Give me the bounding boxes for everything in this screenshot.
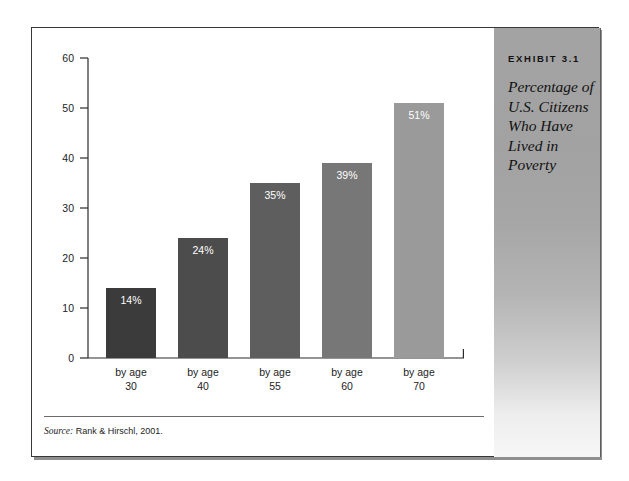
x-tick-line-2: 40 bbox=[168, 380, 238, 394]
x-tick-line-2: 70 bbox=[384, 380, 454, 394]
x-tick-line-2: 30 bbox=[96, 380, 166, 394]
source-text: Rank & Hirschl, 2001. bbox=[73, 426, 163, 436]
x-tick-line-1: by age bbox=[96, 366, 166, 380]
figure-card: 0 10 20 30 40 50 60 14% 24% 35% bbox=[31, 27, 599, 457]
bar-value-label: 35% bbox=[250, 189, 300, 201]
chart-region: 0 10 20 30 40 50 60 14% 24% 35% bbox=[32, 28, 494, 457]
exhibit-figure: 0 10 20 30 40 50 60 14% 24% 35% bbox=[0, 0, 629, 481]
bar-by-age-30: 14% bbox=[106, 288, 156, 358]
exhibit-number-label: EXHIBIT 3.1 bbox=[508, 53, 600, 64]
bar-value-label: 14% bbox=[106, 294, 156, 306]
x-tick-line-2: 55 bbox=[240, 380, 310, 394]
x-tick-line-1: by age bbox=[384, 366, 454, 380]
x-tick-label-by-age-55: by age 55 bbox=[240, 366, 310, 393]
x-tick-label-by-age-60: by age 60 bbox=[312, 366, 382, 393]
exhibit-title: Percentage of U.S. Citizens Who Have Liv… bbox=[508, 77, 594, 175]
source-prefix: Source: bbox=[44, 426, 73, 436]
bar-by-age-40: 24% bbox=[178, 238, 228, 358]
bar-by-age-60: 39% bbox=[322, 163, 372, 358]
exhibit-side-panel: EXHIBIT 3.1 Percentage of U.S. Citizens … bbox=[494, 28, 601, 457]
x-tick-label-by-age-30: by age 30 bbox=[96, 366, 166, 393]
bar-value-label: 24% bbox=[178, 244, 228, 256]
bar-value-label: 51% bbox=[394, 109, 444, 121]
x-tick-line-1: by age bbox=[168, 366, 238, 380]
bar-by-age-70: 51% bbox=[394, 103, 444, 358]
x-tick-label-by-age-40: by age 40 bbox=[168, 366, 238, 393]
source-divider bbox=[44, 416, 484, 417]
source-note: Source: Rank & Hirschl, 2001. bbox=[44, 426, 163, 436]
x-tick-line-1: by age bbox=[240, 366, 310, 380]
bar-by-age-55: 35% bbox=[250, 183, 300, 358]
x-tick-label-by-age-70: by age 70 bbox=[384, 366, 454, 393]
x-tick-line-1: by age bbox=[312, 366, 382, 380]
x-tick-line-2: 60 bbox=[312, 380, 382, 394]
bar-value-label: 39% bbox=[322, 169, 372, 181]
